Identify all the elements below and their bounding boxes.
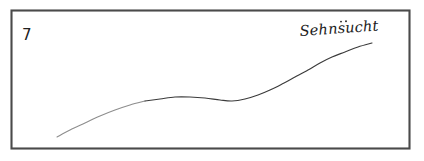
sketch-canvas: 7 Sehnsucht [0, 0, 424, 161]
umlaut-dot-right [345, 20, 347, 22]
umlaut-dot-left [340, 21, 342, 23]
index-number: 7 [22, 26, 32, 44]
